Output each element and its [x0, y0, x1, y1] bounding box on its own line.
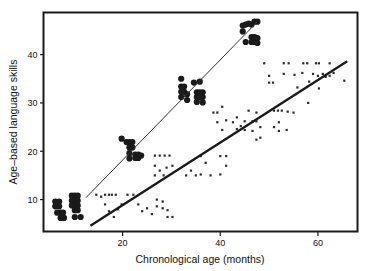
data-point: [259, 137, 261, 139]
data-point: [56, 203, 62, 209]
data-point: [219, 155, 221, 157]
data-point: [154, 174, 156, 176]
plot-canvas: 10203040 204060 Chronological age (month…: [0, 0, 370, 271]
data-point: [255, 111, 257, 113]
data-point: [115, 194, 117, 196]
data-point: [190, 169, 192, 171]
data-point: [108, 194, 110, 196]
data-point: [156, 205, 158, 207]
data-point: [162, 207, 164, 209]
data-point: [164, 155, 166, 157]
data-point: [126, 194, 128, 196]
data-point: [281, 110, 283, 112]
y-tick-label: 10: [27, 195, 37, 205]
data-point: [244, 120, 246, 122]
data-point: [277, 110, 279, 112]
data-point: [236, 128, 238, 130]
data-point: [209, 174, 211, 176]
data-point: [272, 82, 274, 84]
data-point: [225, 155, 227, 157]
data-point: [302, 62, 304, 64]
data-point: [159, 155, 161, 157]
data-point: [197, 79, 203, 85]
data-point: [283, 62, 285, 64]
data-point: [243, 39, 249, 45]
data-point: [221, 129, 223, 131]
data-point: [113, 216, 115, 218]
data-point: [301, 72, 303, 74]
data-point: [100, 196, 102, 198]
data-point: [240, 28, 246, 34]
data-point: [104, 203, 106, 205]
data-point: [178, 76, 184, 82]
data-point: [156, 198, 158, 200]
y-axis-ticks: 10203040: [27, 50, 44, 205]
data-point: [278, 121, 280, 123]
data-point: [166, 216, 168, 218]
data-point: [154, 155, 156, 157]
data-point: [225, 119, 227, 121]
y-tick-label: 20: [27, 147, 37, 157]
data-point: [104, 194, 106, 196]
data-point: [329, 75, 331, 77]
data-point: [259, 126, 261, 128]
data-point: [268, 75, 270, 77]
data-point: [185, 174, 187, 176]
data-point: [307, 102, 309, 104]
y-tick-label: 30: [27, 98, 37, 108]
data-point: [141, 210, 143, 212]
data-point: [75, 207, 81, 213]
data-point: [181, 83, 187, 89]
data-point: [159, 169, 161, 171]
data-point: [146, 207, 148, 209]
data-point: [171, 216, 173, 218]
data-point: [163, 174, 165, 176]
data-point: [137, 203, 139, 205]
data-point: [236, 116, 238, 118]
data-point: [138, 153, 144, 159]
data-point: [312, 73, 314, 75]
data-point: [95, 194, 97, 196]
data-point: [221, 106, 223, 108]
data-point: [61, 215, 67, 221]
data-point: [287, 111, 289, 113]
data-point: [129, 139, 135, 145]
data-point: [171, 165, 173, 167]
x-axis-title: Chronological age (months): [136, 253, 265, 265]
data-point: [308, 81, 310, 83]
plot-frame: [44, 13, 358, 232]
data-point: [254, 40, 260, 46]
data-point: [111, 194, 113, 196]
data-point: [240, 125, 242, 127]
data-point: [306, 62, 308, 64]
data-point: [251, 130, 253, 132]
data-point: [343, 80, 345, 82]
x-tick-label: 20: [118, 238, 128, 248]
data-point: [322, 73, 324, 75]
data-point: [318, 62, 320, 64]
data-point: [317, 75, 319, 77]
data-point: [283, 73, 285, 75]
data-point: [329, 62, 331, 64]
data-point: [296, 86, 298, 88]
data-point: [273, 126, 275, 128]
data-point: [232, 121, 234, 123]
data-point: [244, 129, 246, 131]
data-point: [219, 173, 221, 175]
data-point: [212, 111, 214, 113]
data-point: [78, 214, 84, 220]
x-tick-label: 40: [215, 238, 225, 248]
data-point: [165, 167, 167, 169]
data-point: [132, 194, 134, 196]
data-point: [248, 110, 250, 112]
data-point: [72, 214, 78, 220]
data-point: [268, 82, 270, 84]
data-point: [60, 210, 66, 216]
y-tick-label: 40: [27, 50, 37, 60]
data-point: [332, 72, 334, 74]
x-axis-ticks: 204060: [118, 232, 323, 249]
data-point: [126, 155, 132, 161]
scatter-plot-figure: 10203040 204060 Chronological age (month…: [0, 0, 370, 271]
data-point: [225, 165, 227, 167]
data-point: [205, 162, 207, 164]
